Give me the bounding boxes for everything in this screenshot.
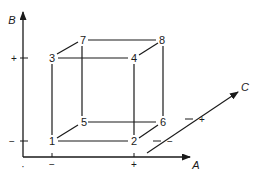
- axis-b-high-sign: +: [11, 53, 17, 64]
- axis-c-low-sign: −: [167, 136, 173, 147]
- cube-depth-edges: [57, 42, 158, 138]
- vertex-6: 6: [160, 116, 166, 128]
- vertex-5: 5: [81, 116, 87, 128]
- vertex-7: 7: [80, 34, 86, 46]
- vertex-8: 8: [159, 34, 165, 46]
- origin-tick: ·: [21, 161, 24, 172]
- axis-a-label: A: [191, 159, 199, 171]
- axis-c-label: C: [241, 81, 249, 93]
- axis-c-high-sign: +: [199, 114, 205, 125]
- cube-front-face: [52, 58, 134, 141]
- cube-back-face: [82, 40, 163, 122]
- cube-diagram: 1 2 3 4 5 6 7 8 B A C + − − + − + ·: [0, 0, 258, 177]
- vertex-4: 4: [131, 52, 137, 64]
- vertex-1: 1: [49, 135, 55, 147]
- axis-b-low-sign: −: [9, 136, 15, 147]
- axis-a-high-sign: +: [131, 159, 137, 170]
- axis-a-low-sign: −: [49, 159, 55, 170]
- vertex-labels: 1 2 3 4 5 6 7 8: [49, 34, 166, 147]
- vertex-3: 3: [49, 52, 55, 64]
- axis-b-label: B: [8, 14, 15, 26]
- vertex-2: 2: [131, 135, 137, 147]
